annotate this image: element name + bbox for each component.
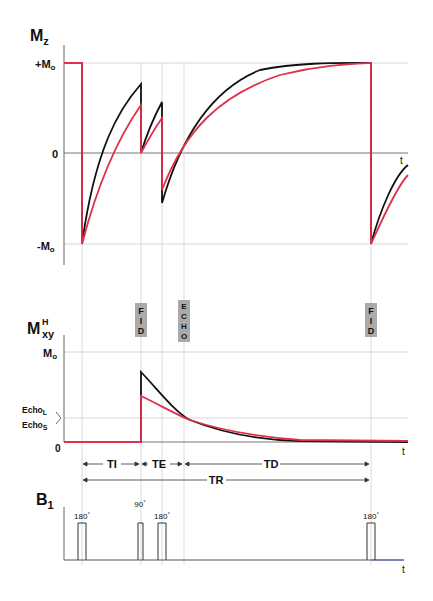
pulse-label-1: 180° bbox=[74, 511, 90, 521]
pulse-90 bbox=[138, 523, 143, 560]
mz-axis-label: Mz bbox=[30, 27, 49, 47]
echo-bracket-icon bbox=[56, 412, 61, 424]
mxy-axis-label: M bbox=[27, 320, 40, 337]
rf-pulses bbox=[78, 523, 375, 560]
svg-text:H: H bbox=[181, 322, 187, 331]
td-label: TD bbox=[264, 458, 279, 470]
svg-text:O: O bbox=[181, 332, 187, 341]
mxy-panel: F I D E C H O F I D M H xy Mo EchoL Echo… bbox=[22, 300, 408, 457]
mxy-axis-sup: H bbox=[42, 317, 49, 327]
echo-tag: E C H O bbox=[178, 300, 190, 342]
plus-m0-label: +Mo bbox=[35, 58, 56, 72]
svg-text:C: C bbox=[181, 312, 187, 321]
pulse-label-3: 180° bbox=[154, 511, 170, 521]
echo-long-label: EchoL bbox=[22, 405, 48, 416]
svg-text:I: I bbox=[370, 316, 373, 326]
b1-panel: 180° 90° 180° 180° B1 t bbox=[36, 491, 405, 575]
inversion-recovery-spin-echo-diagram: Mz +Mo 0 -Mo t F I D E C H O F I D bbox=[0, 0, 433, 601]
te-label: TE bbox=[152, 458, 166, 470]
mxy-zero-label: 0 bbox=[55, 443, 61, 454]
fid-tag-1: F I D bbox=[135, 303, 147, 337]
mxy-axis-sub: xy bbox=[42, 328, 55, 340]
mz-long-t1-curve bbox=[64, 63, 408, 244]
svg-text:E: E bbox=[181, 302, 187, 311]
svg-text:I: I bbox=[140, 316, 143, 326]
minus-m0-label: -Mo bbox=[37, 240, 55, 254]
tr-label: TR bbox=[209, 474, 224, 486]
pulse-label-2: 90° bbox=[134, 499, 146, 509]
echo-short-label: EchoS bbox=[22, 420, 48, 431]
event-gridlines bbox=[82, 63, 371, 565]
b1-t-label: t bbox=[402, 564, 405, 575]
svg-text:D: D bbox=[138, 326, 145, 336]
m0-label: Mo bbox=[43, 347, 57, 361]
fid-tag-2: F I D bbox=[365, 303, 377, 337]
mz-t-label: t bbox=[400, 155, 403, 166]
mz-short-t1-curve bbox=[64, 63, 408, 244]
interval-arrows bbox=[83, 462, 369, 482]
svg-text:F: F bbox=[368, 306, 374, 316]
b1-axis-label: B1 bbox=[36, 491, 54, 511]
pulse-label-4: 180° bbox=[363, 511, 379, 521]
ti-label: TI bbox=[107, 458, 117, 470]
zero-label: 0 bbox=[52, 148, 58, 160]
mxy-t-label: t bbox=[402, 446, 405, 457]
svg-text:F: F bbox=[138, 306, 144, 316]
mxy-short-t1-curve bbox=[64, 396, 408, 442]
svg-text:D: D bbox=[368, 326, 375, 336]
